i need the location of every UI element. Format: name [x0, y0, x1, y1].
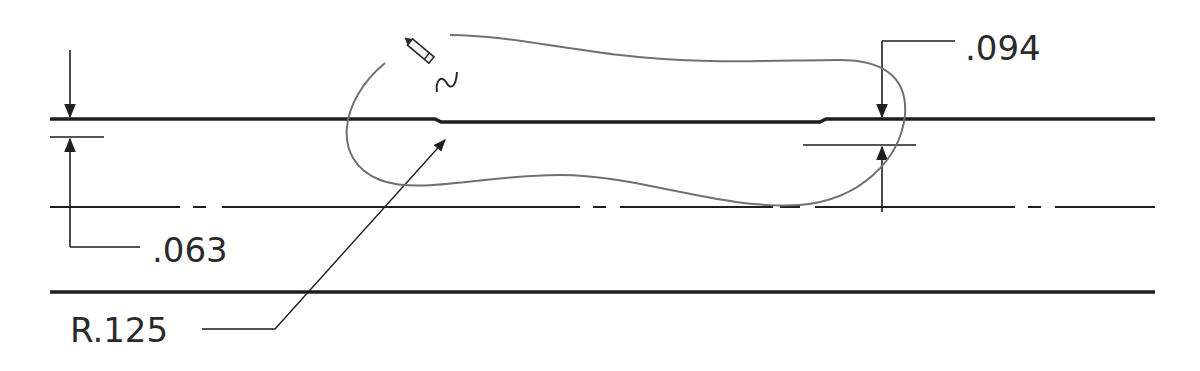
pencil-icon — [402, 34, 457, 92]
dimension-063: .063 — [50, 50, 228, 270]
dimension-label-063: .063 — [152, 230, 228, 270]
technical-drawing: .063 .094 R.125 — [0, 0, 1200, 371]
dimension-r125: R.125 — [70, 140, 445, 350]
top-edge-line — [50, 119, 1155, 122]
dimension-label-094: .094 — [965, 28, 1041, 68]
dimension-label-r125: R.125 — [70, 310, 168, 350]
